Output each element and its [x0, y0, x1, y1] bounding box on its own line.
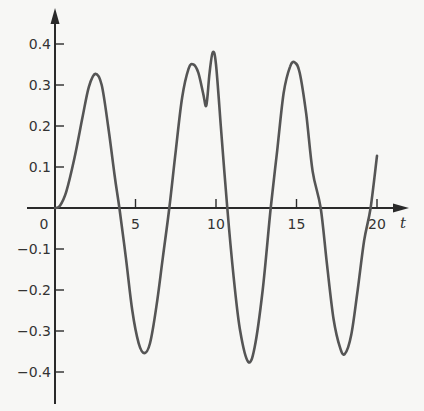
x-tick-label: 5	[131, 216, 140, 232]
y-tick-label: 0.1	[29, 159, 51, 175]
x-tick-label: 0	[40, 216, 49, 232]
y-tick-label: 0.2	[29, 118, 51, 134]
y-axis-arrow-icon	[51, 8, 60, 24]
y-tick-label: −0.4	[17, 364, 51, 380]
x-ticks: 05101520	[40, 199, 386, 232]
x-tick-label: 10	[207, 216, 225, 232]
x-tick-label: 15	[288, 216, 306, 232]
y-axis: 0.40.30.20.1−0.1−0.2−0.3−0.4	[17, 8, 64, 404]
y-tick-label: −0.1	[17, 241, 51, 257]
x-axis-label: t	[400, 214, 407, 232]
y-tick-label: 0.4	[29, 36, 51, 52]
y-tick-label: 0.3	[29, 77, 51, 93]
x-axis: 05101520 t	[27, 199, 409, 232]
line-chart: 0.40.30.20.1−0.1−0.2−0.3−0.4 05101520 t	[0, 0, 424, 411]
x-axis-arrow-icon	[393, 204, 409, 213]
y-tick-label: −0.3	[17, 323, 51, 339]
x-tick-label: 20	[368, 216, 386, 232]
y-tick-label: −0.2	[17, 282, 51, 298]
